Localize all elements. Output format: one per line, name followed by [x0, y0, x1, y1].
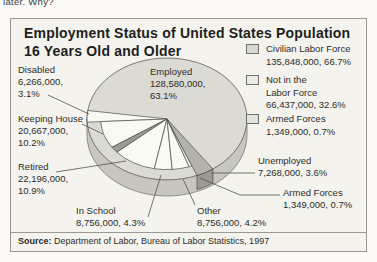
legend-label: Armed Forces: [266, 113, 335, 126]
label-keeping-house-value: 20,667,000,: [18, 125, 83, 137]
label-employed-value: 128,580,000,: [150, 78, 205, 90]
source-prefix: Source:: [18, 236, 52, 246]
source-text: Department of Labor, Bureau of Labor Sta…: [52, 236, 270, 246]
label-employed-pct: 63.1%: [150, 90, 205, 102]
legend-swatch-not-in-labor-force: [246, 75, 259, 85]
label-keeping-house: Keeping House 20,667,000, 10.2%: [18, 113, 83, 149]
label-in-school: In School 8,756,000, 4.3%: [76, 205, 145, 229]
label-disabled: Disabled 6,266,000, 3.1%: [18, 64, 63, 100]
label-retired: Retired 22,196,000, 10.9%: [18, 161, 68, 197]
legend-item-not-in-labor-force: Not in the Labor Force 66,437,000, 32.6%: [266, 74, 346, 112]
label-armed-forces-value: 1,349,000, 0.7%: [283, 199, 352, 211]
label-disabled-pct: 3.1%: [18, 88, 63, 100]
label-keeping-house-name: Keeping House: [18, 113, 83, 125]
source-divider: [11, 232, 366, 233]
legend-swatch-armed-forces: [246, 114, 259, 124]
legend-value: 135,848,000, 66.7%: [266, 56, 351, 69]
legend-label: Labor Force: [266, 87, 346, 100]
label-in-school-name: In School: [76, 205, 145, 217]
label-disabled-name: Disabled: [18, 64, 63, 76]
label-retired-pct: 10.9%: [18, 185, 68, 197]
label-disabled-value: 6,266,000,: [18, 76, 63, 88]
legend-label: Civilian Labor Force: [266, 43, 351, 56]
label-unemployed-name: Unemployed: [258, 155, 327, 167]
legend-value: 1,349,000, 0.7%: [266, 126, 335, 139]
label-other: Other 8,756,000, 4.2%: [197, 205, 266, 229]
source-note: Source: Department of Labor, Bureau of L…: [18, 236, 269, 246]
label-in-school-value: 8,756,000, 4.3%: [76, 217, 145, 229]
chart-title-line1: Employment Status of United States Popul…: [24, 24, 354, 42]
label-unemployed-value: 7,268,000, 3.6%: [258, 167, 327, 179]
label-employed-name: Employed: [150, 66, 205, 78]
legend-swatch-civilian-labor-force: [246, 44, 259, 54]
label-other-name: Other: [197, 205, 266, 217]
label-retired-value: 22,196,000,: [18, 173, 68, 185]
label-armed-forces-callout: Armed Forces 1,349,000, 0.7%: [283, 187, 352, 211]
legend-value: 66,437,000, 32.6%: [266, 99, 346, 112]
legend-label: Not in the: [266, 74, 346, 87]
label-unemployed: Unemployed 7,268,000, 3.6%: [258, 155, 327, 179]
legend-item-armed-forces: Armed Forces 1,349,000, 0.7%: [266, 113, 335, 138]
label-retired-name: Retired: [18, 161, 68, 173]
label-armed-forces-name: Armed Forces: [283, 187, 352, 199]
label-employed: Employed 128,580,000, 63.1%: [150, 66, 205, 102]
scanned-textbook-figure: later. Why? Employment Status of United …: [0, 0, 377, 262]
legend-item-civilian-labor-force: Civilian Labor Force 135,848,000, 66.7%: [266, 43, 351, 68]
label-other-value: 8,756,000, 4.2%: [197, 217, 266, 229]
label-keeping-house-pct: 10.2%: [18, 137, 83, 149]
